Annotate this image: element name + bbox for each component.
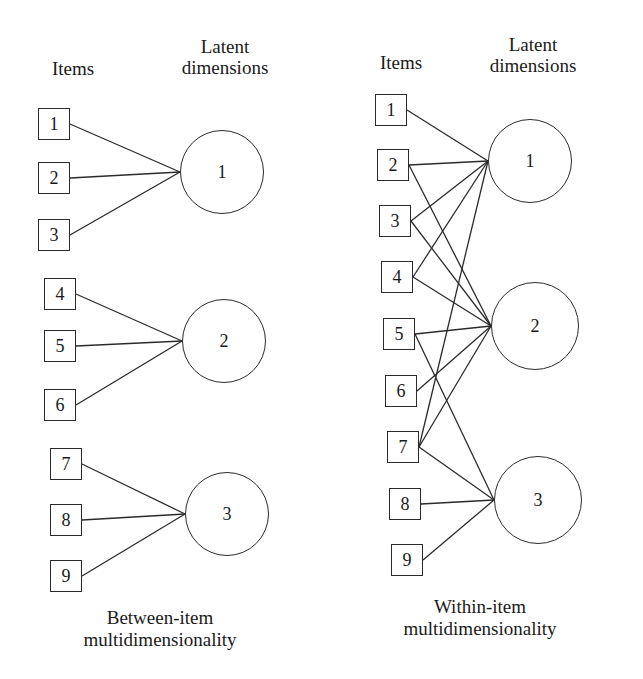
edge-item3-to-dimension1 bbox=[70, 172, 180, 235]
item-box-label: 2 bbox=[50, 169, 59, 187]
edge-item8-to-dimension3 bbox=[421, 500, 494, 504]
item-box-3: 3 bbox=[379, 205, 411, 237]
item-box-9: 9 bbox=[391, 544, 423, 576]
edge-item4-to-dimension2 bbox=[413, 277, 491, 326]
edge-item7-to-dimension2 bbox=[419, 326, 491, 447]
item-box-label: 2 bbox=[389, 156, 398, 174]
item-box-4: 4 bbox=[44, 278, 76, 310]
latent-dimension-label: 2 bbox=[531, 317, 540, 335]
edge-item9-to-dimension3 bbox=[82, 514, 185, 576]
edge-item7-to-dimension1 bbox=[419, 161, 488, 447]
latent-dimension-label: 1 bbox=[218, 163, 227, 181]
item-box-label: 9 bbox=[62, 567, 71, 585]
item-box-label: 1 bbox=[387, 101, 396, 119]
latent-dimension-circle-2: 2 bbox=[182, 299, 266, 383]
latent-dimension-circle-3: 3 bbox=[494, 456, 582, 544]
item-box-5: 5 bbox=[44, 330, 76, 362]
item-box-1: 1 bbox=[375, 94, 407, 126]
item-box-4: 4 bbox=[381, 261, 413, 293]
item-box-label: 3 bbox=[391, 212, 400, 230]
latent-dimension-circle-2: 2 bbox=[491, 282, 579, 370]
edge-item6-to-dimension2 bbox=[417, 326, 491, 391]
edge-item2-to-dimension1 bbox=[409, 161, 488, 165]
latent-dimension-label: 3 bbox=[223, 505, 232, 523]
item-box-2: 2 bbox=[377, 149, 409, 181]
item-box-7: 7 bbox=[50, 448, 82, 480]
item-box-label: 8 bbox=[401, 495, 410, 513]
item-box-8: 8 bbox=[389, 488, 421, 520]
edge-item7-to-dimension3 bbox=[419, 447, 494, 500]
latent-dimension-label: 2 bbox=[220, 332, 229, 350]
latent-dimension-circle-1: 1 bbox=[488, 119, 572, 203]
edge-item9-to-dimension3 bbox=[423, 500, 494, 560]
edge-item1-to-dimension1 bbox=[407, 110, 488, 161]
item-box-7: 7 bbox=[387, 431, 419, 463]
edge-item5-to-dimension2 bbox=[76, 341, 182, 346]
item-box-label: 3 bbox=[50, 226, 59, 244]
edge-item8-to-dimension3 bbox=[82, 514, 185, 520]
item-box-label: 5 bbox=[56, 337, 65, 355]
edge-item5-to-dimension2 bbox=[415, 326, 491, 334]
item-box-1: 1 bbox=[38, 108, 70, 140]
figure-canvas: Items Latent dimensions 123456789 123 Be… bbox=[0, 0, 643, 679]
item-box-label: 7 bbox=[62, 455, 71, 473]
edge-item4-to-dimension1 bbox=[413, 161, 488, 277]
item-box-5: 5 bbox=[383, 318, 415, 350]
header-latent-dimensions-right: Latent dimensions bbox=[458, 34, 608, 77]
header-items-right: Items bbox=[356, 52, 446, 73]
item-box-label: 6 bbox=[56, 396, 65, 414]
edge-item7-to-dimension3 bbox=[82, 464, 185, 514]
item-box-label: 9 bbox=[403, 551, 412, 569]
item-box-label: 7 bbox=[399, 438, 408, 456]
item-box-label: 4 bbox=[393, 268, 402, 286]
header-items-left: Items bbox=[28, 58, 118, 79]
latent-dimension-circle-3: 3 bbox=[185, 472, 269, 556]
edge-item2-to-dimension1 bbox=[70, 172, 180, 178]
latent-dimension-circle-1: 1 bbox=[180, 130, 264, 214]
item-box-3: 3 bbox=[38, 219, 70, 251]
edge-item4-to-dimension2 bbox=[76, 294, 182, 341]
caption-between-item: Between-item multidimensionality bbox=[10, 607, 310, 652]
item-box-label: 1 bbox=[50, 115, 59, 133]
edge-item1-to-dimension1 bbox=[70, 124, 180, 172]
edge-item5-to-dimension3 bbox=[415, 334, 494, 500]
latent-dimension-label: 1 bbox=[526, 152, 535, 170]
edge-item3-to-dimension1 bbox=[411, 161, 488, 221]
caption-within-item: Within-item multidimensionality bbox=[330, 596, 630, 641]
item-box-label: 8 bbox=[62, 511, 71, 529]
header-latent-dimensions-left: Latent dimensions bbox=[150, 36, 300, 79]
item-box-label: 6 bbox=[397, 382, 406, 400]
panel-between-item: Items Latent dimensions 123456789 123 Be… bbox=[0, 0, 330, 679]
item-box-2: 2 bbox=[38, 162, 70, 194]
panel-within-item: Items Latent dimensions 123456789 123 Wi… bbox=[330, 0, 643, 679]
latent-dimension-label: 3 bbox=[534, 491, 543, 509]
edge-item2-to-dimension2 bbox=[409, 165, 491, 326]
item-box-9: 9 bbox=[50, 560, 82, 592]
edge-item3-to-dimension2 bbox=[411, 221, 491, 326]
item-box-6: 6 bbox=[44, 389, 76, 421]
item-box-8: 8 bbox=[50, 504, 82, 536]
item-box-label: 5 bbox=[395, 325, 404, 343]
item-box-6: 6 bbox=[385, 375, 417, 407]
item-box-label: 4 bbox=[56, 285, 65, 303]
edge-item6-to-dimension2 bbox=[76, 341, 182, 405]
